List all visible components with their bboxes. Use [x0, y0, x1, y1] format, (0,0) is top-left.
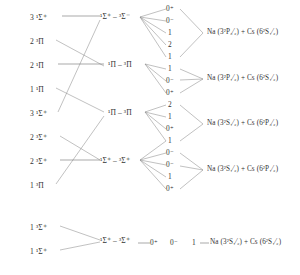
omega-g3-1: 1: [168, 113, 172, 120]
case-a-state-1-1pi: 1 ¹Π: [30, 86, 44, 94]
link-a6-c4: [60, 136, 100, 160]
case-c-state-1pi-3pi-lower: ¹Π – ³Π: [108, 109, 132, 117]
fan-c1-1: [140, 17, 166, 21]
conv-as4-mid: [180, 166, 203, 170]
case-a-state-2-3sigma-plus-upper: 2 ³Σ⁺: [30, 134, 47, 142]
omega-g1-1b: 1: [168, 53, 172, 60]
conv-as2-bot: [180, 79, 203, 93]
fan-c1-3: [140, 17, 166, 45]
fan-c4-3: [140, 160, 166, 177]
asymptote-na3s12-cs6p12: Na (3²S₁⁄₂) + Cs (6²P₁⁄₂): [207, 166, 278, 173]
omega-g1-2: 2: [168, 41, 172, 48]
omega-g4-1: 1: [168, 137, 172, 144]
conv-as1-top: [180, 9, 203, 33]
omega-g2-1: 1: [168, 65, 172, 72]
link-a8-c3: [56, 116, 104, 184]
omega-g4-0minus-b: 0⁻: [166, 161, 174, 168]
fan-c3-3: [145, 112, 166, 141]
fan-c2-2: [145, 64, 166, 93]
omega-ground-0minus: 0⁻: [170, 239, 178, 246]
fan-c1-0: [140, 9, 166, 17]
omega-g1-1: 1: [168, 29, 172, 36]
fan-c2-1: [145, 64, 166, 81]
fan-c1-4: [140, 17, 166, 57]
case-a-state-1-1sigma-plus: 1 ¹Σ⁺: [30, 248, 47, 256]
asymptote-na3p12-cs6s12: Na (3²P₁⁄₂) + Cs (6²S₁⁄₂): [207, 75, 278, 82]
asymptote-na3s12-cs6p32: Na (3²S₁⁄₂) + Cs (6²P₃⁄₂): [207, 120, 278, 127]
asymptote-na3p32-cs6s12: Na (3²P₃⁄₂) + Cs (6²S₁⁄₂): [207, 29, 278, 36]
conv-as3-top: [180, 105, 203, 124]
case-c-state-1sigma-plus-3sigma-plus: ¹Σ⁺ – ³Σ⁺: [100, 157, 130, 165]
fan-c4-0: [140, 141, 166, 160]
case-c-state-1pi-3pi-upper: ¹Π – ³Π: [108, 61, 132, 69]
omega-g2-0minus: 0⁻: [166, 77, 174, 84]
link-a10-c5: [60, 242, 100, 250]
fan-c3-2: [145, 112, 166, 129]
omega-g1-0plus: 0⁺: [166, 5, 174, 12]
fan-c3-0: [145, 105, 166, 112]
link-a9-c5: [60, 226, 100, 240]
conv-as3-bot: [180, 124, 203, 141]
case-a-state-1-3sigma-plus: 1 ³Σ⁺: [30, 224, 47, 232]
fan-c4-4: [140, 160, 166, 189]
fan-c2-0: [145, 64, 166, 69]
case-a-state-3-1sigma-plus-upper: 3 ¹Σ⁺: [30, 14, 47, 22]
omega-g1-0minus: 0⁻: [166, 17, 174, 24]
case-c-state-1sigma-plus-3sigma-minus: ¹Σ⁺ – ³Σ⁻: [100, 13, 130, 21]
case-a-state-3-1sigma-plus-lower: 3 ¹Σ⁺: [30, 110, 47, 118]
correlation-diagram: 3 ¹Σ⁺ 2 ³Π 2 ¹Π 1 ¹Π 3 ¹Σ⁺ 2 ³Σ⁺ 2 ³Σ⁺ 1…: [0, 0, 300, 275]
omega-ground-0plus: 0⁺: [150, 239, 158, 246]
case-a-state-1-3pi: 1 ³Π: [30, 182, 44, 190]
link-a5-c1: [58, 20, 100, 112]
asymptote-na3s12-cs6s12: Na (3²S₁⁄₂) + Cs (6²S₁⁄₂): [210, 239, 281, 246]
link-a4-c3: [56, 88, 104, 112]
omega-g3-0plus: 0⁺: [166, 125, 174, 132]
conv-as2-top: [180, 69, 203, 79]
fan-c3-1: [145, 112, 166, 117]
omega-g4-1b: 1: [168, 173, 172, 180]
case-a-state-2-3pi: 2 ³Π: [30, 38, 44, 46]
conv-as2-mid: [180, 79, 203, 80]
omega-ground-1: 1: [192, 239, 196, 246]
omega-g4-0plus: 0⁺: [166, 185, 174, 192]
omega-g2-0plus: 0⁺: [166, 89, 174, 96]
conv-as4-bot: [180, 170, 203, 189]
case-a-state-2-1pi: 2 ¹Π: [30, 62, 44, 70]
omega-g4-0minus: 0⁻: [166, 149, 174, 156]
case-c-state-ground-1sigma-3sigma: ¹Σ⁺ – ³Σ⁺: [100, 237, 130, 245]
link-a2-c2: [56, 40, 104, 66]
case-a-state-2-3sigma-plus-lower: 2 ³Σ⁺: [30, 158, 47, 166]
conv-as1-bot: [180, 33, 203, 57]
conv-as4-top: [180, 153, 203, 170]
omega-g3-2: 2: [168, 101, 172, 108]
fan-c1-2: [140, 17, 166, 33]
fan-c4-2: [140, 160, 166, 165]
fan-c4-1: [140, 153, 166, 160]
